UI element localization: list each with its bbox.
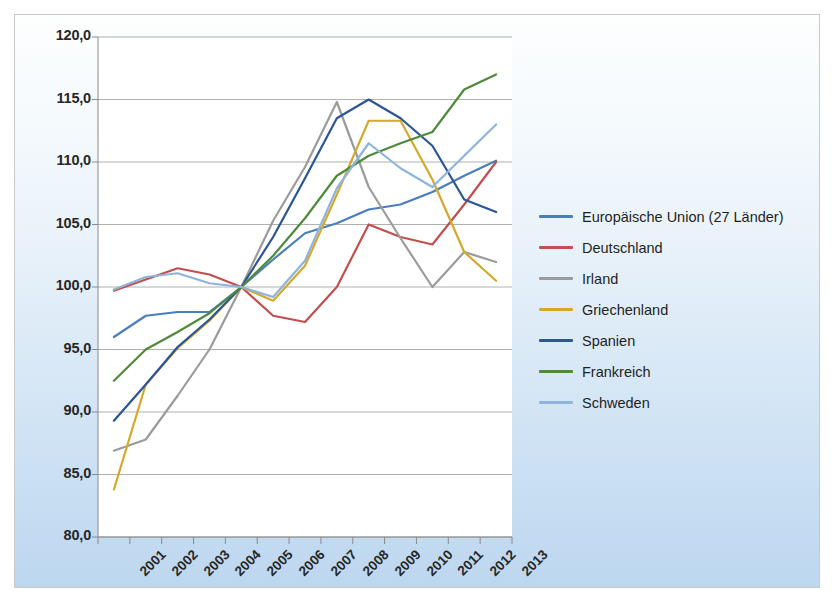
series-lines — [114, 75, 496, 490]
legend-item[interactable]: Griechenland — [539, 294, 819, 325]
x-axis-tick-label: 2001 — [137, 547, 169, 579]
legend-item[interactable]: Schweden — [539, 387, 819, 418]
gridlines — [98, 37, 512, 537]
y-axis-tick-label: 110,0 — [23, 152, 91, 168]
y-axis-tick-label: 105,0 — [23, 215, 91, 231]
series-line-1 — [114, 162, 496, 322]
legend-label: Deutschland — [582, 240, 663, 256]
legend-label: Frankreich — [582, 364, 651, 380]
legend-color-swatch — [539, 246, 573, 249]
legend-item[interactable]: Frankreich — [539, 356, 819, 387]
series-line-0 — [114, 161, 496, 337]
y-axis-tick-label: 85,0 — [23, 465, 91, 481]
x-axis-labels: 2001200220032004200520062007200820092010… — [98, 539, 518, 599]
legend-item[interactable]: Europäische Union (27 Länder) — [539, 201, 819, 232]
chart-legend: Europäische Union (27 Länder)Deutschland… — [539, 201, 819, 418]
chart-page: 80,085,090,095,0100,0105,0110,0115,0120,… — [0, 0, 832, 602]
x-axis-tick-label: 2005 — [264, 547, 296, 579]
x-axis-tick-label: 2007 — [328, 547, 360, 579]
y-axis-tick-label: 80,0 — [23, 527, 91, 543]
legend-label: Spanien — [582, 333, 635, 349]
y-axis-tick-label: 100,0 — [23, 277, 91, 293]
x-axis-tick-label: 2006 — [296, 547, 328, 579]
legend-color-swatch — [539, 401, 573, 404]
x-axis-tick-label: 2008 — [360, 547, 392, 579]
x-axis-tick-label: 2009 — [391, 547, 423, 579]
x-axis-tick-label: 2002 — [169, 547, 201, 579]
x-axis-tick-label: 2010 — [423, 547, 455, 579]
x-axis-tick-label: 2003 — [200, 547, 232, 579]
legend-item[interactable]: Spanien — [539, 325, 819, 356]
legend-color-swatch — [539, 308, 573, 311]
series-line-5 — [114, 75, 496, 381]
legend-label: Europäische Union (27 Länder) — [582, 209, 784, 225]
legend-color-swatch — [539, 370, 573, 373]
y-axis-labels: 80,085,090,095,0100,0105,0110,0115,0120,… — [15, 15, 91, 589]
chart-panel: 80,085,090,095,0100,0105,0110,0115,0120,… — [14, 14, 820, 588]
series-line-2 — [114, 102, 496, 451]
legend-item[interactable]: Irland — [539, 263, 819, 294]
y-axis-tick-label: 120,0 — [23, 27, 91, 43]
x-axis-tick-label: 2012 — [487, 547, 519, 579]
y-axis-tick-label: 115,0 — [23, 90, 91, 106]
legend-item[interactable]: Deutschland — [539, 232, 819, 263]
legend-color-swatch — [539, 277, 573, 280]
y-axis-tick-label: 90,0 — [23, 402, 91, 418]
x-axis-tick-label: 2011 — [455, 547, 486, 578]
legend-label: Irland — [582, 271, 618, 287]
legend-color-swatch — [539, 339, 573, 342]
legend-label: Griechenland — [582, 302, 668, 318]
legend-color-swatch — [539, 215, 573, 218]
x-axis-tick-label: 2004 — [232, 547, 264, 579]
legend-label: Schweden — [582, 395, 650, 411]
y-axis-tick-label: 95,0 — [23, 340, 91, 356]
